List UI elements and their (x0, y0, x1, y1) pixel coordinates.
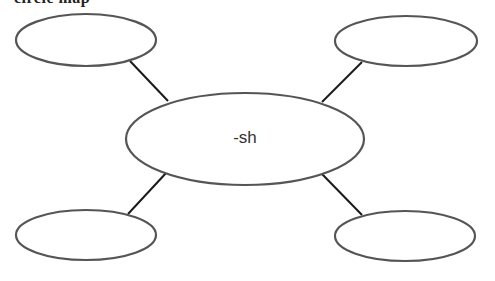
branch-node-top-left[interactable] (16, 14, 156, 66)
branch-node-bottom-right[interactable] (335, 211, 475, 261)
branch-node-bottom-left[interactable] (16, 210, 156, 260)
spider-map-diagram: -sh (0, 0, 495, 281)
branch-node-top-right[interactable] (335, 16, 477, 66)
link-bottom-right (322, 174, 362, 215)
link-bottom-left (128, 172, 167, 214)
link-top-right (322, 62, 362, 102)
link-top-left (130, 61, 168, 101)
center-node-label: -sh (233, 128, 257, 147)
